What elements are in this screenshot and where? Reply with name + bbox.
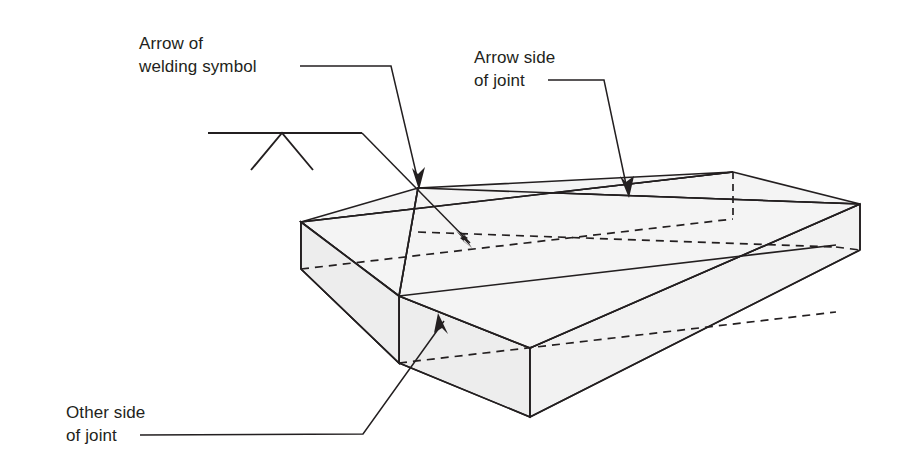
- label-arrow-of-welding-symbol: Arrow of welding symbol: [138, 34, 257, 76]
- label-arrow-of-welding-symbol-line1: Arrow of: [139, 34, 203, 53]
- label-other-side-of-joint: Other side of joint: [66, 403, 145, 445]
- label-other-side-of-joint-line2: of joint: [66, 426, 117, 445]
- label-other-side-of-joint-line1: Other side: [66, 403, 145, 422]
- label-arrow-side-of-joint-line2: of joint: [474, 71, 525, 90]
- diagram-canvas: Arrow of welding symbol Arrow side of jo…: [0, 0, 906, 468]
- plate-assembly: [301, 172, 860, 417]
- label-arrow-side-of-joint: Arrow side of joint: [474, 48, 555, 90]
- leader-path-arrow-side-of-joint: [548, 80, 627, 189]
- label-arrow-side-of-joint-line1: Arrow side: [474, 48, 555, 67]
- welding-symbol-diagram: Arrow of welding symbol Arrow side of jo…: [0, 0, 906, 468]
- weld-symbol-vee: [251, 133, 313, 170]
- leader-path-arrow-of-welding-symbol: [300, 66, 418, 181]
- label-arrow-of-welding-symbol-line2: welding symbol: [138, 57, 257, 76]
- leader-arrow-of-welding-symbol: [300, 66, 425, 190]
